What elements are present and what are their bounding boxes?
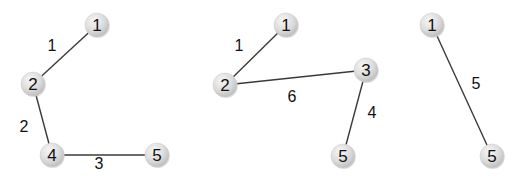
graph-b-edge-1-2 — [225, 25, 286, 85]
graph-b-node-2: 2 — [213, 73, 238, 98]
graph-b-node-1: 1 — [274, 13, 299, 38]
graph-b-edge-2-3 — [225, 70, 366, 85]
node-label: 1 — [281, 16, 290, 35]
graph-a-node-1: 1 — [85, 13, 110, 38]
graph-c-edge-weight-1-5: 5 — [472, 75, 481, 92]
node-label: 2 — [220, 76, 229, 95]
node-label: 2 — [28, 75, 37, 94]
graph-b-edge-weight-2-3: 6 — [288, 88, 297, 105]
node-label: 5 — [152, 146, 161, 165]
node-label: 3 — [361, 61, 370, 80]
graph-b-edge-weight-1-2: 1 — [235, 37, 244, 54]
graph-c-edge-1-5 — [432, 25, 492, 156]
edges-layer — [33, 25, 492, 156]
node-label: 4 — [47, 146, 56, 165]
node-label: 5 — [487, 147, 496, 166]
node-label: 1 — [92, 16, 101, 35]
graph-diagrams: 1231645 1245123515 — [0, 0, 526, 185]
graph-a-edge-weight-1-2: 1 — [48, 37, 57, 54]
edge-labels-layer: 1231645 — [20, 37, 481, 172]
graph-a-edge-weight-2-4: 2 — [20, 118, 29, 135]
graph-b-edge-weight-3-5: 4 — [368, 104, 377, 121]
graph-a-node-5: 5 — [145, 143, 170, 168]
graph-a-node-4: 4 — [40, 143, 65, 168]
graph-a-node-2: 2 — [21, 72, 46, 97]
diagram-canvas: 1231645 1245123515 — [0, 0, 526, 185]
nodes-layer: 1245123515 — [21, 13, 505, 169]
node-label: 1 — [427, 16, 436, 35]
graph-b-node-5: 5 — [331, 144, 356, 169]
graph-c-node-1: 1 — [420, 13, 445, 38]
node-label: 5 — [338, 147, 347, 166]
graph-a-edge-weight-4-5: 3 — [95, 155, 104, 172]
graph-a-edge-1-2 — [33, 25, 97, 84]
graph-b-node-3: 3 — [354, 58, 379, 83]
graph-b-edge-3-5 — [343, 70, 366, 156]
graph-c-node-5: 5 — [480, 144, 505, 169]
